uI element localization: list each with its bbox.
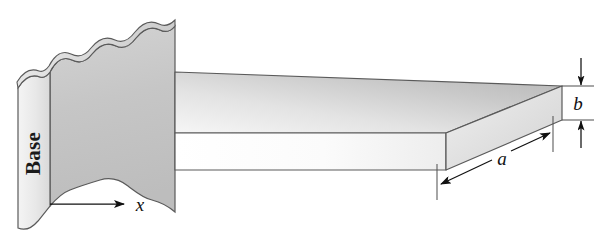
dimension-a-label: a (497, 148, 507, 169)
diagram-canvas: Base b (0, 0, 602, 250)
base-label: Base (21, 132, 45, 175)
dimension-b-group: b (562, 58, 594, 148)
beam-front-face (175, 133, 446, 170)
base-wall-group: Base (17, 20, 175, 229)
dimension-b-label: b (573, 93, 583, 114)
axis-x-group: x (50, 194, 145, 215)
cantilever-beam-figure: Base b (0, 0, 602, 250)
axis-x-label: x (135, 194, 145, 215)
